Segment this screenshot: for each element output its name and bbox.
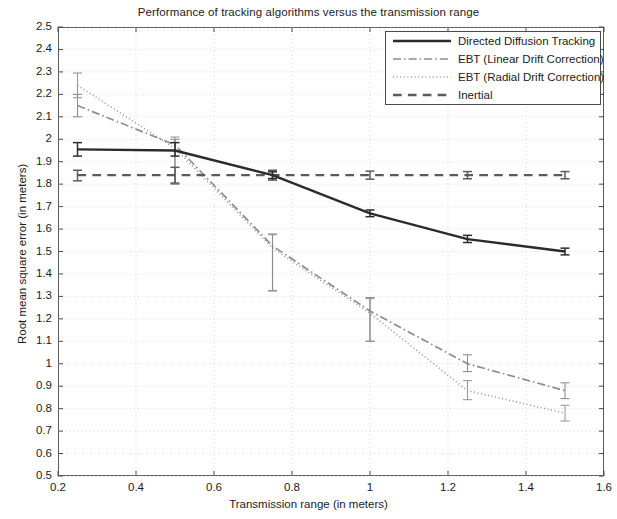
y-tick-label: 0.8 [6, 403, 52, 415]
x-tick-label: 0.8 [272, 482, 312, 494]
y-tick-label: 0.9 [6, 380, 52, 392]
y-tick-label: 1.6 [6, 223, 52, 235]
y-tick-label: 1.8 [6, 178, 52, 190]
y-tick-label: 2.5 [6, 21, 52, 33]
x-axis-label: Transmission range (in meters) [0, 498, 617, 510]
legend-line-sample [391, 34, 453, 48]
series-line [78, 149, 566, 251]
legend-line-sample [391, 88, 453, 102]
y-tick-label: 0.5 [6, 470, 52, 482]
y-tick-label: 2.3 [6, 66, 52, 78]
legend-entry: EBT (Linear Drift Correction) [386, 50, 600, 68]
error-bar [366, 298, 375, 342]
y-tick-label: 1 [6, 358, 52, 370]
x-tick-label: 0.6 [194, 482, 234, 494]
legend-entry: EBT (Radial Drift Correction) [386, 68, 600, 86]
y-axis-label: Root mean square error (in meters) [16, 163, 28, 343]
y-tick-label: 1.4 [6, 268, 52, 280]
x-tick-label: 0.4 [116, 482, 156, 494]
y-tick-label: 2.4 [6, 43, 52, 55]
x-tick-label: 1.2 [428, 482, 468, 494]
x-tick-label: 1.6 [584, 482, 617, 494]
legend-label: Directed Diffusion Tracking [453, 35, 595, 47]
legend-line-sample [391, 52, 453, 66]
y-tick-label: 0.6 [6, 448, 52, 460]
error-bar [463, 381, 472, 400]
legend-label: Inertial [453, 89, 493, 101]
y-tick-label: 1.9 [6, 156, 52, 168]
error-bar [561, 383, 570, 399]
y-tick-label: 1.3 [6, 290, 52, 302]
series-0 [73, 143, 570, 255]
legend-label: EBT (Linear Drift Correction) [453, 53, 604, 65]
legend-label: EBT (Radial Drift Correction) [453, 71, 604, 83]
x-tick-label: 1.4 [506, 482, 546, 494]
y-tick-label: 2.2 [6, 88, 52, 100]
y-tick-label: 1.7 [6, 201, 52, 213]
y-tick-label: 2.1 [6, 111, 52, 123]
y-tick-label: 1.1 [6, 335, 52, 347]
x-tick-label: 1 [350, 482, 390, 494]
legend-entry: Directed Diffusion Tracking [386, 32, 600, 50]
x-tick-label: 0.2 [38, 482, 78, 494]
series-3 [73, 167, 570, 183]
y-tick-label: 1.5 [6, 246, 52, 258]
legend-line-sample [391, 70, 453, 84]
series-line [78, 106, 566, 391]
legend-entry: Inertial [386, 86, 600, 104]
error-bar [463, 355, 472, 372]
figure-container: Performance of tracking algorithms versu… [0, 0, 617, 519]
y-tick-label: 0.7 [6, 425, 52, 437]
series-1 [73, 94, 570, 398]
series-2 [73, 73, 570, 421]
y-tick-label: 1.2 [6, 313, 52, 325]
y-tick-label: 2 [6, 133, 52, 145]
legend: Directed Diffusion TrackingEBT (Linear D… [385, 31, 601, 105]
